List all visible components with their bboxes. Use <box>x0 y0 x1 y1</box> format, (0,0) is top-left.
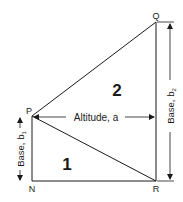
diagonal-PR <box>32 116 156 181</box>
trapezoid-shape <box>32 22 156 181</box>
vertex-P-label: P <box>26 106 32 116</box>
trapezoid-area-diagram: Altitude, a Base, b1 Base, b2 P Q N R 2 … <box>0 0 183 202</box>
altitude-label: Altitude, a <box>74 112 119 123</box>
vertex-N-label: N <box>29 184 36 194</box>
triangle-1-label: 1 <box>62 155 71 174</box>
base2-label: Base, b2 <box>165 88 177 124</box>
vertex-Q-label: Q <box>152 11 159 21</box>
vertex-R-label: R <box>153 184 160 194</box>
edge-QP <box>32 22 156 116</box>
triangle-2-label: 2 <box>112 81 121 100</box>
base1-label: Base, b1 <box>15 131 27 167</box>
